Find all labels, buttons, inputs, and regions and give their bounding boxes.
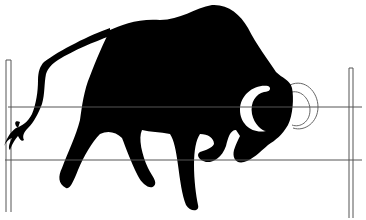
bull-illustration: Bull silhouette behind a wire fence: [0, 0, 366, 220]
